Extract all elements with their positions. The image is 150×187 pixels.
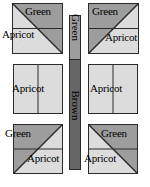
quilt-block-diagram: Green Brown GreenApricotGreenApricotApri… (0, 0, 150, 187)
block-fill-middle-right (89, 65, 137, 113)
bar-segment-brown (70, 60, 80, 169)
quilt-block-top-left (12, 3, 63, 54)
block-fill-middle-left (14, 65, 62, 113)
quilt-block-middle-right (88, 64, 138, 114)
quilt-block-top-right (88, 3, 139, 54)
center-sashing-bar (69, 15, 81, 170)
quilt-block-middle-left (13, 64, 63, 114)
block-fill-top-left (13, 4, 62, 53)
block-fill-top-right (89, 4, 138, 53)
quilt-block-bottom-right (88, 124, 138, 174)
block-fill-bottom-left (14, 125, 62, 173)
bar-segment-green (70, 16, 80, 60)
block-fill-bottom-right (89, 125, 137, 173)
quilt-block-bottom-left (13, 124, 63, 174)
